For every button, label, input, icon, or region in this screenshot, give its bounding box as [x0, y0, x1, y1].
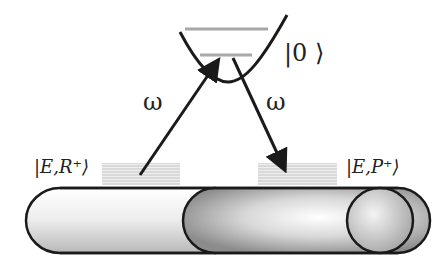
photon-label-right: ω: [266, 88, 286, 116]
product-state-label: |E,P⁺⟩: [346, 156, 400, 178]
ground-state-label: |0 ⟩: [284, 39, 324, 68]
tube-right-cap: [347, 188, 413, 253]
tube: [26, 188, 430, 253]
molecular-transition-diagram: |0 ⟩ ω ω |E,R⁺⟩ |E,P⁺⟩: [0, 0, 446, 268]
reactant-state-label: |E,R⁺⟩: [34, 156, 89, 178]
potential-well-curve: [180, 15, 287, 82]
product-energy-band: [258, 163, 337, 185]
absorption-arrow: [140, 62, 217, 175]
photon-label-left: ω: [143, 88, 163, 116]
